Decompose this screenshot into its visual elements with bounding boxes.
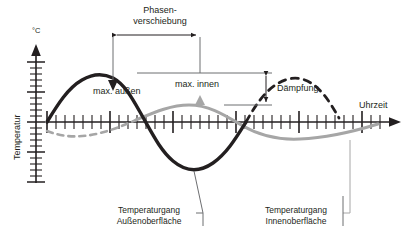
damping-label: Dämpfung bbox=[277, 83, 319, 93]
inner-curve-callout-leader bbox=[343, 140, 350, 226]
max-inner-label: max. innen bbox=[175, 79, 219, 89]
outer-curve-name-line1: Temperaturgang bbox=[103, 206, 195, 216]
max-inner-triangle-icon bbox=[195, 95, 205, 105]
y-axis-title: Temperatur bbox=[12, 114, 22, 160]
outer-curve-callout-leader bbox=[194, 171, 203, 226]
temperature-phase-shift-diagram: °C Temperatur Uhrzeit Phasen- verschiebu… bbox=[0, 0, 413, 241]
diagram-canvas bbox=[0, 0, 413, 241]
inner-curve-name-line2: Innenoberfläche bbox=[250, 217, 342, 227]
outer-curve-name-line2: Außenoberfläche bbox=[103, 217, 195, 227]
x-axis-title: Uhrzeit bbox=[359, 100, 388, 110]
phase-shift-label-line1: Phasen- bbox=[113, 5, 207, 15]
outer-callout-path bbox=[194, 171, 203, 226]
max-outer-label: max. außen bbox=[93, 86, 141, 96]
y-axis-arrowhead bbox=[31, 44, 41, 56]
phase-shift-label-line2: verschiebung bbox=[113, 16, 207, 26]
y-axis-ticks bbox=[27, 62, 45, 182]
y-axis-unit-label: °C bbox=[32, 27, 40, 35]
x-axis-arrowhead bbox=[389, 117, 401, 127]
y-axis-group bbox=[27, 44, 45, 183]
inner-curve-name-line1: Temperaturgang bbox=[250, 206, 342, 216]
inner-callout-path bbox=[343, 140, 350, 213]
